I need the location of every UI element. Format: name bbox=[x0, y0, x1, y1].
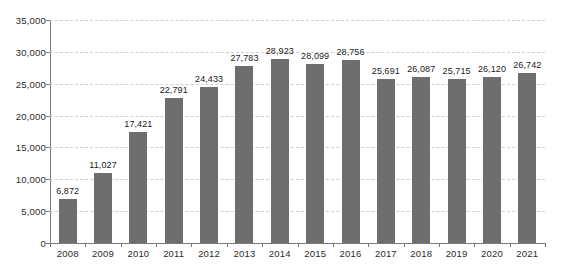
plot-area: 6,87211,02717,42122,79124,43327,78328,92… bbox=[50, 20, 545, 243]
y-axis-tick-label: 30,000 bbox=[0, 46, 46, 57]
bar[interactable] bbox=[518, 73, 536, 243]
x-axis-tick-label: 2017 bbox=[366, 248, 406, 259]
x-axis-tick bbox=[368, 243, 369, 247]
bar-value-label: 17,421 bbox=[124, 119, 152, 129]
bar-value-label: 27,783 bbox=[230, 53, 258, 63]
x-axis-tick bbox=[85, 243, 86, 247]
x-axis-tick-label: 2008 bbox=[48, 248, 88, 259]
bar-group: 28,756 bbox=[333, 20, 368, 243]
bar-group: 25,691 bbox=[368, 20, 403, 243]
x-axis-tick bbox=[227, 243, 228, 247]
y-axis-tick-label: 25,000 bbox=[0, 78, 46, 89]
bar[interactable] bbox=[342, 60, 360, 243]
x-axis-tick-label: 2016 bbox=[331, 248, 371, 259]
bar-group: 26,742 bbox=[510, 20, 545, 243]
bar-group: 17,421 bbox=[121, 20, 156, 243]
bar[interactable] bbox=[448, 79, 466, 243]
x-axis-tick bbox=[156, 243, 157, 247]
bar-group: 26,087 bbox=[404, 20, 439, 243]
bar-value-label: 24,433 bbox=[195, 74, 223, 84]
bar[interactable] bbox=[412, 77, 430, 243]
bar-value-label: 6,872 bbox=[56, 186, 79, 196]
x-axis-tick bbox=[474, 243, 475, 247]
y-axis-tick-label: 0 bbox=[0, 238, 46, 249]
bar-group: 26,120 bbox=[474, 20, 509, 243]
y-axis-tick-label: 35,000 bbox=[0, 15, 46, 26]
x-axis-tick-label: 2014 bbox=[260, 248, 300, 259]
bar-group: 24,433 bbox=[191, 20, 226, 243]
bar-group: 28,099 bbox=[298, 20, 333, 243]
x-axis-tick bbox=[262, 243, 263, 247]
x-axis-tick bbox=[439, 243, 440, 247]
bar[interactable] bbox=[235, 66, 253, 243]
bar-group: 27,783 bbox=[227, 20, 262, 243]
x-axis-tick-label: 2009 bbox=[83, 248, 123, 259]
bar[interactable] bbox=[59, 199, 77, 243]
bar-value-label: 26,742 bbox=[513, 60, 541, 70]
x-axis-tick-label: 2010 bbox=[118, 248, 158, 259]
bar[interactable] bbox=[200, 87, 218, 243]
x-axis-tick bbox=[121, 243, 122, 247]
bar[interactable] bbox=[271, 59, 289, 243]
x-axis-tick bbox=[404, 243, 405, 247]
bar[interactable] bbox=[306, 64, 324, 243]
bar[interactable] bbox=[165, 98, 183, 243]
x-axis-tick bbox=[298, 243, 299, 247]
bar-value-label: 26,120 bbox=[478, 64, 506, 74]
y-axis-tick-label: 15,000 bbox=[0, 142, 46, 153]
x-axis-tick-label: 2021 bbox=[507, 248, 547, 259]
bar-value-label: 28,756 bbox=[336, 47, 364, 57]
bar-value-label: 28,099 bbox=[301, 51, 329, 61]
bar[interactable] bbox=[377, 79, 395, 243]
x-axis-tick-label: 2015 bbox=[295, 248, 335, 259]
x-axis-tick bbox=[333, 243, 334, 247]
x-axis-tick-label: 2018 bbox=[401, 248, 441, 259]
x-axis-tick-label: 2013 bbox=[224, 248, 264, 259]
bar[interactable] bbox=[483, 77, 501, 243]
y-axis-tick-label: 5,000 bbox=[0, 206, 46, 217]
y-axis-tick-label: 20,000 bbox=[0, 110, 46, 121]
bar[interactable] bbox=[129, 132, 147, 243]
bar-group: 6,872 bbox=[50, 20, 85, 243]
bar-series: 6,87211,02717,42122,79124,43327,78328,92… bbox=[50, 20, 545, 243]
x-axis-tick-label: 2011 bbox=[154, 248, 194, 259]
bar-group: 22,791 bbox=[156, 20, 191, 243]
bar-group: 28,923 bbox=[262, 20, 297, 243]
bar-value-label: 26,087 bbox=[407, 64, 435, 74]
bar-value-label: 25,715 bbox=[443, 66, 471, 76]
bar-group: 11,027 bbox=[85, 20, 120, 243]
x-axis-tick-label: 2012 bbox=[189, 248, 229, 259]
x-axis-tick bbox=[50, 243, 51, 247]
x-axis-tick bbox=[191, 243, 192, 247]
x-axis-tick bbox=[510, 243, 511, 247]
x-axis-tick bbox=[545, 243, 546, 247]
bar-value-label: 25,691 bbox=[372, 66, 400, 76]
y-axis-tick-label: 10,000 bbox=[0, 174, 46, 185]
bar-value-label: 28,923 bbox=[266, 46, 294, 56]
bar[interactable] bbox=[94, 173, 112, 243]
bar-chart: 05,00010,00015,00020,00025,00030,00035,0… bbox=[0, 0, 572, 270]
x-axis-tick-label: 2019 bbox=[437, 248, 477, 259]
bar-value-label: 22,791 bbox=[160, 85, 188, 95]
x-axis-tick-label: 2020 bbox=[472, 248, 512, 259]
bar-value-label: 11,027 bbox=[89, 160, 116, 170]
bar-group: 25,715 bbox=[439, 20, 474, 243]
